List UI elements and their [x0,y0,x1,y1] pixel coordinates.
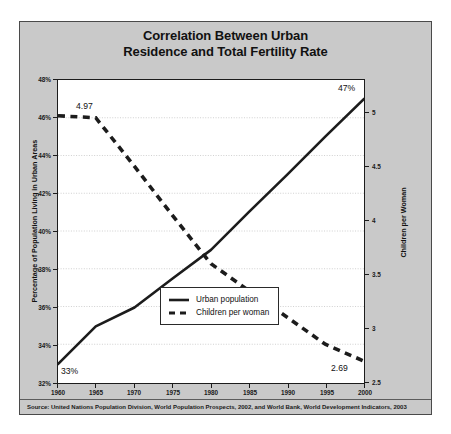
y-right-tick-5: 5 [372,109,398,116]
solid-line-icon [168,295,190,305]
y-right-tickmark-3-5 [365,274,369,275]
y-left-tick-48: 48% [25,76,51,83]
x-tick-1985: 1985 [230,389,270,396]
x-tickmark-1990 [288,384,289,388]
y-right-tickmark-4 [365,220,369,221]
legend-item-children-per-woman: Children per woman [168,306,269,319]
x-tickmark-1975 [172,384,173,388]
x-tickmark-1965 [95,384,96,388]
annotation-33pct: 33% [61,366,78,376]
y-right-tickmark-3 [365,328,369,329]
y-left-tick-34: 34% [25,342,51,349]
chart-legend: Urban population Children per woman [160,287,279,325]
y-left-tick-36: 36% [25,304,51,311]
y-axis-right-title: Children per Woman [399,163,408,283]
y-right-tick-2-5: 2.5 [372,379,398,386]
x-tick-1960: 1960 [38,389,78,396]
y-left-tick-32: 32% [25,380,51,387]
annotation-2-69: 2.69 [331,363,348,373]
x-tickmark-1985 [249,384,250,388]
plot-svg [58,80,364,383]
x-tick-2000: 2000 [345,389,385,396]
x-tickmark-2000 [364,384,365,388]
x-tickmark-1995 [326,384,327,388]
x-tick-1970: 1970 [114,389,154,396]
chart-title: Correlation Between Urban Residence and … [20,28,431,60]
source-note: Source: United Nations Population Divisi… [27,404,425,410]
y-left-tick-40: 40% [25,228,51,235]
dashed-line-icon [168,308,190,318]
y-left-tick-44: 44% [25,152,51,159]
x-tickmark-1980 [211,384,212,388]
x-tick-1995: 1995 [307,389,347,396]
chart-figure: Correlation Between Urban Residence and … [19,21,432,415]
x-tickmark-1970 [134,384,135,388]
y-right-tickmark-4-5 [365,166,369,167]
y-right-tickmark-5 [365,112,369,113]
y-left-tick-38: 38% [25,266,51,273]
y-left-tick-46: 46% [25,114,51,121]
x-tick-1975: 1975 [153,389,193,396]
chart-title-line-1: Correlation Between Urban [143,28,308,43]
x-tick-1980: 1980 [191,389,231,396]
y-right-tick-3-5: 3.5 [372,271,398,278]
plot-area [57,79,365,384]
annotation-47pct: 47% [338,83,355,93]
source-note-container: Source: United Nations Population Divisi… [20,399,431,414]
legend-item-urban-population: Urban population [168,293,269,306]
y-axis-left-title: Percentage of Population Living in Urban… [30,143,39,303]
legend-label-children-per-woman: Children per woman [196,308,269,317]
x-tick-1965: 1965 [76,389,116,396]
x-tick-1990: 1990 [268,389,308,396]
annotation-4-97: 4.97 [76,101,93,111]
y-right-tickmark-2-5 [365,382,369,383]
legend-label-urban-population: Urban population [196,295,258,304]
x-tickmark-1960 [57,384,58,388]
y-left-tick-42: 42% [25,190,51,197]
y-right-tick-4: 4 [372,217,398,224]
y-right-tick-4-5: 4.5 [372,163,398,170]
chart-title-line-2: Residence and Total Fertility Rate [20,44,431,60]
y-right-tick-3: 3 [372,325,398,332]
